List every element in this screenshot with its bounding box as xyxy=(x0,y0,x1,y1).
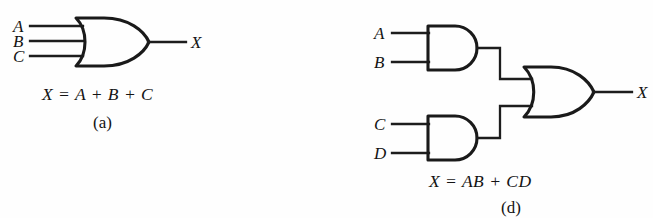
panel-a-group xyxy=(30,18,186,66)
label-input-c: C xyxy=(13,47,25,66)
panel-d-group xyxy=(392,26,632,160)
equation-a: X = A + B + C xyxy=(41,84,153,104)
label-output-x-d: X xyxy=(636,83,648,102)
or-gate-shape xyxy=(76,18,149,66)
wire-and-bottom-to-or xyxy=(477,106,532,138)
wire-and-top-to-or xyxy=(477,48,532,79)
or-gate-shape-d xyxy=(524,67,594,117)
caption-a: (a) xyxy=(93,113,112,132)
label-input-a-d: A xyxy=(373,24,385,43)
circuit-diagram-svg: A B C X X = A + B + C (a) xyxy=(0,0,653,218)
caption-d: (d) xyxy=(501,198,521,217)
equation-d: X = AB + CD xyxy=(428,171,532,191)
label-input-d-d: D xyxy=(373,144,387,163)
label-output-x: X xyxy=(190,33,202,52)
and-gate-top-shape xyxy=(428,26,477,70)
label-input-c-d: C xyxy=(374,115,386,134)
label-input-b-d: B xyxy=(374,53,385,72)
logic-gate-figure: A B C X X = A + B + C (a) xyxy=(0,0,653,218)
and-gate-bottom-shape xyxy=(428,116,477,160)
